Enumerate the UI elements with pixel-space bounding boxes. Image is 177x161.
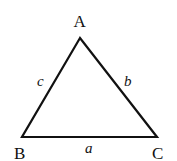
side-label-c: c: [37, 73, 44, 89]
triangle-diagram: A B C c b a: [0, 0, 177, 161]
side-label-a: a: [85, 140, 93, 156]
vertex-label-b: B: [14, 144, 25, 161]
vertex-label-c: C: [152, 144, 163, 161]
side-label-b: b: [124, 73, 132, 89]
vertex-label-a: A: [74, 12, 87, 31]
